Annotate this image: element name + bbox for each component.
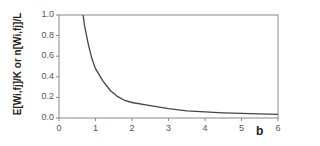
plot-frame [59, 15, 278, 118]
x-tick-label: 1 [89, 123, 103, 133]
y-tick-label: 0.8 [28, 30, 54, 40]
y-tick-label: 1.0 [28, 9, 54, 19]
y-tick-label: 0.2 [28, 91, 54, 101]
data-line [83, 15, 278, 114]
x-tick-label: 3 [162, 123, 176, 133]
y-tick-label: 0.6 [28, 50, 54, 60]
x-tick-label: 4 [198, 123, 212, 133]
x-tick-label: 5 [235, 123, 249, 133]
x-tick-label: 6 [271, 123, 285, 133]
y-tick-label: 0.4 [28, 71, 54, 81]
x-tick-label: 0 [52, 123, 66, 133]
x-tick-label: 2 [125, 123, 139, 133]
y-tick-label: 0.0 [28, 112, 54, 122]
